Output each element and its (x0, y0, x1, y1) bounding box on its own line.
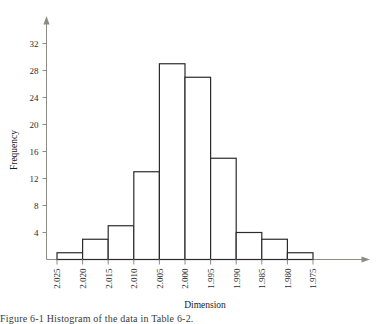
histogram-bar (159, 64, 185, 260)
x-tick-label: 2.020 (78, 268, 88, 289)
histogram-bar (287, 253, 313, 260)
histogram-bar (262, 239, 288, 259)
y-tick-label: 12 (30, 174, 39, 184)
histogram-bar (185, 77, 211, 259)
x-tick-label: 1.980 (283, 268, 293, 289)
x-tick-label: 2.025 (52, 268, 62, 289)
y-axis-arrow (43, 16, 49, 25)
x-axis-label: Dimension (184, 300, 226, 310)
y-tick-label: 24 (30, 93, 40, 103)
y-tick-label: 8 (34, 201, 39, 211)
x-tick-group: 2.0252.0202.0152.0102.0052.0001.9951.990… (52, 260, 318, 289)
figure-caption: Figure 6-1 Histogram of the data in Tabl… (0, 313, 379, 324)
bar-group (57, 64, 313, 260)
y-axis-label: Frequency (9, 130, 19, 170)
histogram-bar (236, 233, 262, 260)
histogram-bar (108, 226, 134, 260)
x-tick-label: 2.010 (129, 268, 139, 289)
y-tick-label: 20 (30, 120, 40, 130)
histogram-bar (134, 172, 160, 260)
x-tick-label: 1.975 (308, 268, 318, 289)
x-axis-arrow (362, 256, 371, 262)
histogram-bar (211, 158, 237, 259)
x-tick-label: 2.005 (155, 268, 165, 289)
x-tick-label: 2.015 (104, 268, 114, 289)
y-tick-label: 32 (30, 39, 39, 49)
y-tick-group: 48121620242832 (30, 39, 47, 238)
x-tick-label: 1.985 (257, 268, 267, 289)
histogram-bar (83, 239, 109, 259)
histogram-bar (57, 253, 83, 260)
x-tick-label: 2.000 (180, 268, 190, 289)
y-tick-label: 16 (30, 147, 40, 157)
x-tick-label: 1.995 (206, 268, 216, 289)
x-tick-label: 1.990 (232, 268, 242, 289)
y-tick-label: 4 (34, 228, 39, 238)
y-tick-label: 28 (30, 66, 40, 76)
